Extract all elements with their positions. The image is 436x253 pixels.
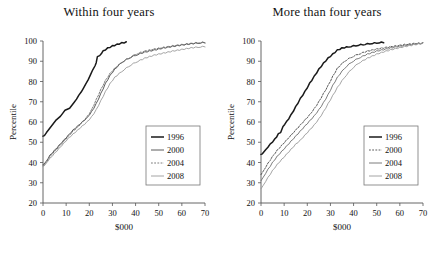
x-tick-label: 0 xyxy=(259,208,263,218)
y-tick-label: 70 xyxy=(29,97,38,107)
y-tick-label: 30 xyxy=(29,178,38,188)
legend-label-2000: 2000 xyxy=(167,145,184,155)
y-tick-label: 20 xyxy=(247,198,256,208)
legend-label-2004: 2004 xyxy=(167,158,185,168)
y-tick-label: 30 xyxy=(247,178,256,188)
x-tick-label: 70 xyxy=(201,208,210,218)
panel-more-than-four-years: More than four years 2030405060708090100… xyxy=(218,0,436,253)
y-tick-label: 80 xyxy=(247,77,256,87)
x-tick-label: 10 xyxy=(280,208,289,218)
y-tick-label: 100 xyxy=(24,36,37,46)
y-axis-label: Percentile xyxy=(8,104,18,140)
x-axis-label: $000 xyxy=(115,222,134,232)
legend-label-2008: 2008 xyxy=(385,171,402,181)
y-tick-label: 90 xyxy=(29,56,38,66)
x-tick-label: 10 xyxy=(62,208,71,218)
x-tick-label: 50 xyxy=(154,208,163,218)
x-tick-label: 40 xyxy=(131,208,140,218)
legend-label-2000: 2000 xyxy=(385,145,402,155)
x-tick-label: 60 xyxy=(396,208,405,218)
y-tick-label: 80 xyxy=(29,77,38,87)
y-tick-label: 70 xyxy=(247,97,256,107)
y-tick-label: 60 xyxy=(247,117,256,127)
y-tick-label: 100 xyxy=(242,36,255,46)
legend-label-1996: 1996 xyxy=(385,132,402,142)
chart-svg-right: 2030405060708090100010203040506070$000Pe… xyxy=(218,0,436,253)
y-tick-label: 90 xyxy=(247,56,256,66)
x-axis-label: $000 xyxy=(333,222,352,232)
x-tick-label: 20 xyxy=(303,208,312,218)
legend-label-1996: 1996 xyxy=(167,132,184,142)
chart-svg-left: 2030405060708090100010203040506070$000Pe… xyxy=(0,0,218,253)
x-tick-label: 0 xyxy=(41,208,45,218)
x-tick-label: 60 xyxy=(178,208,187,218)
figure-container: Within four years 2030405060708090100010… xyxy=(0,0,436,253)
y-tick-label: 20 xyxy=(29,198,38,208)
y-tick-label: 50 xyxy=(247,137,256,147)
y-tick-label: 50 xyxy=(29,137,38,147)
legend-label-2008: 2008 xyxy=(167,171,184,181)
x-tick-label: 70 xyxy=(419,208,428,218)
x-tick-label: 20 xyxy=(85,208,94,218)
series-line-1996 xyxy=(43,42,126,136)
y-tick-label: 40 xyxy=(247,158,256,168)
x-tick-label: 30 xyxy=(326,208,335,218)
x-tick-label: 50 xyxy=(372,208,381,218)
x-tick-label: 30 xyxy=(108,208,117,218)
panel-within-four-years: Within four years 2030405060708090100010… xyxy=(0,0,218,253)
y-tick-label: 40 xyxy=(29,158,38,168)
y-tick-label: 60 xyxy=(29,117,38,127)
x-tick-label: 40 xyxy=(349,208,358,218)
y-axis-label: Percentile xyxy=(226,104,236,140)
legend-label-2004: 2004 xyxy=(385,158,403,168)
